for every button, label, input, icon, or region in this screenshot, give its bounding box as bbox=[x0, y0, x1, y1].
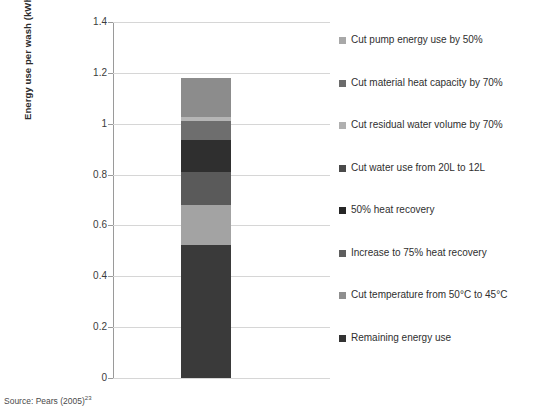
bar-segment[interactable] bbox=[181, 78, 231, 117]
y-axis-line bbox=[113, 22, 114, 379]
legend-swatch-icon bbox=[339, 165, 346, 172]
legend-item-label: Increase to 75% heat recovery bbox=[351, 247, 487, 258]
y-axis-tick-labels: 1.41.210.80.60.40.20 bbox=[63, 22, 107, 379]
bar-segment[interactable] bbox=[181, 121, 231, 140]
y-axis-tick-label: 0.8 bbox=[67, 170, 107, 180]
legend-swatch-icon bbox=[339, 37, 346, 44]
y-axis-tick-label: 1.2 bbox=[67, 68, 107, 78]
source-text: Source: Pears (2005) bbox=[4, 396, 85, 406]
y-axis-tick-label: 0.4 bbox=[67, 271, 107, 281]
legend-item-label: Cut pump energy use by 50% bbox=[351, 34, 483, 45]
legend-item-label: Cut temperature from 50°C to 45°C bbox=[351, 289, 507, 300]
legend-item[interactable]: Cut temperature from 50°C to 45°C bbox=[339, 289, 554, 332]
gridline bbox=[113, 378, 330, 379]
legend-item[interactable]: Cut residual water volume by 70% bbox=[339, 119, 554, 162]
legend-item[interactable]: 50% heat recovery bbox=[339, 204, 554, 247]
y-axis-tick-label: 0.6 bbox=[67, 220, 107, 230]
legend-swatch-icon bbox=[339, 122, 346, 129]
legend-swatch-icon bbox=[339, 207, 346, 214]
legend-item-label: Remaining energy use bbox=[351, 332, 451, 343]
legend-item[interactable]: Cut water use from 20L to 12L bbox=[339, 162, 554, 205]
bar-segment[interactable] bbox=[181, 245, 231, 378]
legend-item[interactable]: Cut material heat capacity by 70% bbox=[339, 77, 554, 120]
legend-swatch-icon bbox=[339, 250, 346, 257]
legend-swatch-icon bbox=[339, 335, 346, 342]
y-axis-tick-label: 0.2 bbox=[67, 322, 107, 332]
bar-segment[interactable] bbox=[181, 172, 231, 205]
legend-item-label: 50% heat recovery bbox=[351, 204, 434, 215]
bar-segment[interactable] bbox=[181, 140, 231, 172]
legend-item-label: Cut material heat capacity by 70% bbox=[351, 77, 503, 88]
y-axis-tick-label: 1.4 bbox=[67, 17, 107, 27]
gridline bbox=[113, 73, 330, 74]
source-footnote: 23 bbox=[85, 395, 92, 401]
legend-item[interactable]: Increase to 75% heat recovery bbox=[339, 247, 554, 290]
legend-swatch-icon bbox=[339, 80, 346, 87]
legend-item[interactable]: Remaining energy use bbox=[339, 332, 554, 375]
plot-area bbox=[113, 22, 330, 378]
legend-item-label: Cut water use from 20L to 12L bbox=[351, 162, 485, 173]
chart-legend: Cut pump energy use by 50%Cut material h… bbox=[339, 34, 554, 374]
bar-segment[interactable] bbox=[181, 205, 231, 245]
y-axis-title: Energy use per wash (kWh) bbox=[22, 0, 33, 120]
chart-figure: Energy use per wash (kWh) 1.41.210.80.60… bbox=[0, 0, 559, 386]
y-axis-tick-label: 0 bbox=[67, 373, 107, 383]
legend-item[interactable]: Cut pump energy use by 50% bbox=[339, 34, 554, 77]
gridline bbox=[113, 22, 330, 23]
legend-item-label: Cut residual water volume by 70% bbox=[351, 119, 503, 130]
legend-swatch-icon bbox=[339, 292, 346, 299]
y-axis-tick-label: 1 bbox=[67, 119, 107, 129]
source-note: Source: Pears (2005)23 bbox=[4, 395, 91, 406]
